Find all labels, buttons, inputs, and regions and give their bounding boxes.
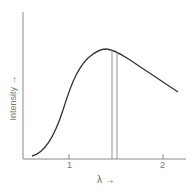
intensity-curve: [32, 49, 178, 156]
chart-canvas: [0, 0, 196, 193]
x-axis-label: λ →: [97, 174, 115, 185]
x-tick-label-1: 1: [67, 160, 72, 170]
x-tick-label-2: 2: [160, 160, 165, 170]
y-axis-label: Intensity →: [7, 60, 19, 136]
